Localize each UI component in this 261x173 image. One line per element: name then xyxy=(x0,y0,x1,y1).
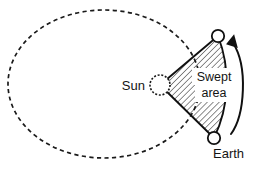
orbital-motion-arrow-shaft xyxy=(231,43,243,134)
sun-label: Sun xyxy=(122,78,145,93)
orbit-position-marker-upper xyxy=(212,30,224,42)
swept-area-label-line2: area xyxy=(201,86,226,100)
kepler-second-law-diagram: Sun Swept area Earth xyxy=(0,0,261,173)
earth-body-icon xyxy=(208,132,220,144)
earth-label: Earth xyxy=(213,146,244,161)
swept-area-label-line1: Swept xyxy=(197,70,232,84)
orbit-diagram-canvas: Sun Swept area Earth xyxy=(0,0,261,173)
sun-body-icon xyxy=(150,75,170,95)
orbital-motion-arrow-head xyxy=(226,33,240,48)
